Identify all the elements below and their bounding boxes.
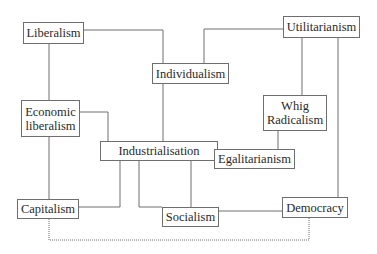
node-egalitarianism: Egalitarianism [214,149,295,169]
node-liberalism: Liberalism [23,22,84,44]
node-label: Egalitarianism [218,152,291,166]
edge-economic-liberalism-industrialisation [80,112,108,141]
node-label: Utilitarianism [287,20,356,34]
node-capitalism: Capitalism [17,199,79,219]
node-label: Industrialisation [118,144,199,158]
node-individualism: Individualism [152,63,229,84]
edge-industrialisation-socialism [139,161,162,207]
edge-utilitarianism-individualism [204,29,283,63]
node-economic-liberalism: Economic liberalism [21,100,80,137]
node-label: Democracy [286,201,344,215]
edge-liberalism-individualism [84,30,163,63]
node-whig-radicalism: Whig Radicalism [263,95,327,131]
node-label-line-2: Radicalism [267,113,323,127]
node-label: Individualism [156,67,225,81]
node-label-line-1: Whig [281,99,309,113]
node-label-line-1: Economic [25,105,76,119]
edge-industrialisation-capitalism [79,161,120,207]
node-socialism: Socialism [162,207,219,227]
node-label: Capitalism [21,202,75,216]
node-label-line-2: liberalism [26,119,76,133]
concept-map-diagram: Liberalism Individualism Utilitarianism … [0,0,377,254]
node-label: Liberalism [26,26,80,40]
node-industrialisation: Industrialisation [100,141,218,161]
node-utilitarianism: Utilitarianism [283,16,360,38]
node-democracy: Democracy [282,197,348,218]
edge-egalitarianism-socialism [191,159,214,207]
node-label: Socialism [166,210,215,224]
